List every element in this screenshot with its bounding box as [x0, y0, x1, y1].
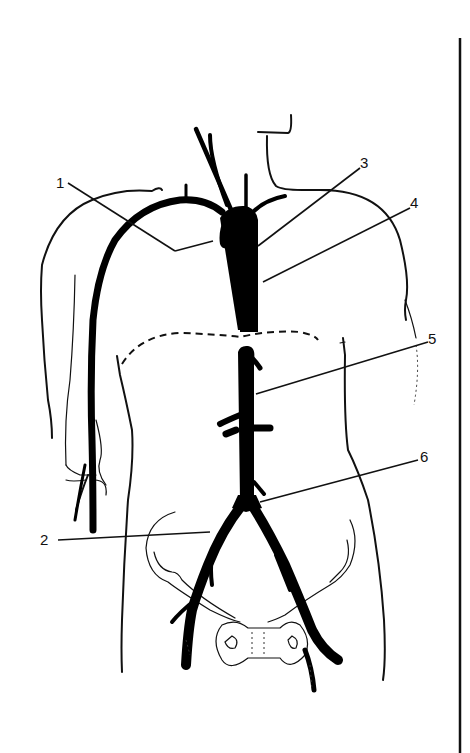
- body-outline: [41, 115, 418, 680]
- label-6: 6: [420, 448, 428, 465]
- leader-3: [258, 168, 360, 246]
- leader-1: [68, 183, 175, 251]
- label-1: 1: [56, 174, 64, 191]
- leader-2: [58, 532, 210, 540]
- label-2: 2: [40, 531, 48, 548]
- leader-5: [256, 342, 428, 394]
- label-5: 5: [428, 330, 436, 347]
- aorta-diagram: 1 2 3 4 5 6: [0, 0, 470, 753]
- label-4: 4: [410, 194, 418, 211]
- leader-6: [260, 460, 418, 502]
- leader-1b: [175, 241, 213, 251]
- leader-4: [263, 208, 410, 282]
- label-3: 3: [360, 154, 368, 171]
